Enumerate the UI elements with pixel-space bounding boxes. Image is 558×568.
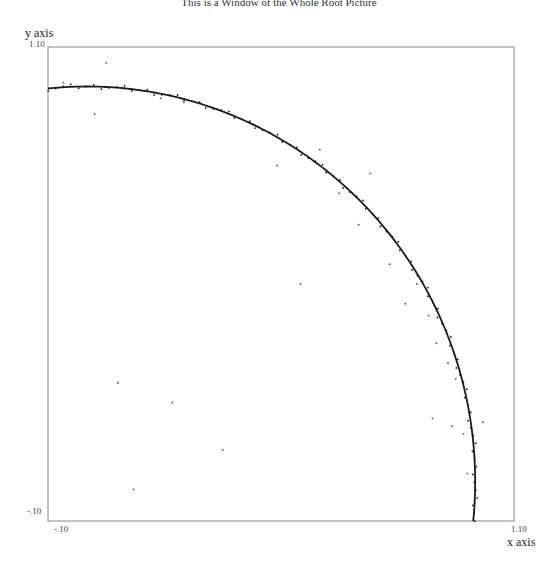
data-point [463, 433, 465, 435]
data-point [94, 113, 96, 115]
data-point [455, 378, 457, 380]
data-point [451, 425, 453, 427]
data-point [435, 342, 437, 344]
data-point [276, 165, 278, 167]
data-point [416, 283, 418, 285]
data-point [319, 149, 321, 151]
data-point [358, 224, 360, 226]
data-point [133, 489, 135, 491]
data-point [404, 303, 406, 305]
data-point [389, 263, 391, 265]
data-point [447, 362, 449, 364]
data-point [428, 315, 430, 317]
circle-curve [47, 84, 478, 522]
scatter-points [63, 62, 484, 490]
data-point [234, 117, 236, 119]
data-point [160, 97, 162, 99]
data-point [338, 192, 340, 194]
data-point [183, 101, 185, 103]
data-point [432, 417, 434, 419]
data-point [300, 283, 302, 285]
plot-area [0, 0, 558, 568]
data-point [105, 62, 107, 64]
data-point [63, 82, 65, 84]
data-point [467, 473, 469, 475]
data-point [482, 421, 484, 423]
data-point [117, 382, 119, 384]
plot-frame [48, 47, 514, 521]
data-point [222, 449, 224, 451]
data-point [369, 173, 371, 175]
data-point [171, 402, 173, 404]
